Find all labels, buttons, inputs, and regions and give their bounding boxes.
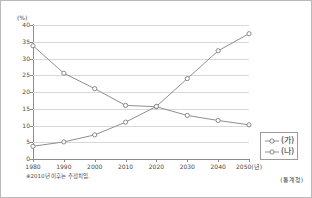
y-axis-tick-label: 20 — [22, 89, 30, 95]
x-axis-tick-label: 1980 — [25, 164, 40, 170]
x-axis-tick-label: 2030 — [180, 164, 195, 170]
data-point-marker — [154, 104, 158, 108]
plot-area — [33, 25, 249, 159]
legend-item: (나) — [264, 146, 294, 157]
data-point-marker — [62, 140, 66, 144]
data-point-marker — [93, 87, 97, 91]
x-axis-tick-mark — [33, 159, 34, 162]
x-axis-tick-label: 2020 — [149, 164, 164, 170]
data-point-marker — [216, 49, 220, 53]
x-axis-tick-label: 2010 — [118, 164, 133, 170]
data-point-marker — [31, 144, 35, 148]
legend-marker-icon — [264, 148, 280, 156]
x-axis-tick-label: 2000 — [87, 164, 102, 170]
y-axis-tick-label: 35 — [22, 39, 30, 45]
data-point-marker — [247, 123, 251, 127]
chart-figure: (%) 0510152025303540 1980199020002010202… — [0, 0, 312, 198]
y-axis-tick-label: 10 — [22, 123, 30, 129]
chart-legend: (가)(나) — [260, 132, 298, 160]
data-point-marker — [31, 44, 35, 48]
x-axis-tick-mark — [249, 159, 250, 162]
data-point-marker — [185, 77, 189, 81]
data-point-marker — [185, 113, 189, 117]
legend-marker-icon — [264, 137, 280, 145]
data-point-marker — [93, 133, 97, 137]
x-axis-tick-mark — [187, 159, 188, 162]
x-axis-tick-mark — [218, 159, 219, 162]
data-point-marker — [123, 103, 127, 107]
series-plot — [33, 25, 249, 159]
x-axis-tick-mark — [64, 159, 65, 162]
x-axis-tick-label: 2040 — [211, 164, 226, 170]
chart-footnote: ※2010년 이후는 추정치임. — [26, 174, 90, 180]
y-axis-tick-label: 15 — [22, 106, 30, 112]
data-point-marker — [62, 71, 66, 75]
data-point-marker — [247, 32, 251, 36]
x-axis-tick-mark — [126, 159, 127, 162]
y-axis-tick-label: 25 — [22, 72, 30, 78]
x-axis-tick-label: 1990 — [56, 164, 71, 170]
x-axis-tick-label: 2050(년) — [236, 164, 262, 170]
data-point-marker — [216, 118, 220, 122]
series-line — [33, 46, 249, 125]
legend-item-label: (나) — [281, 148, 294, 156]
y-axis-tick-label: 40 — [22, 22, 30, 28]
chart-source-note: (통계청) — [280, 177, 303, 183]
legend-item-label: (가) — [281, 137, 294, 145]
x-axis-tick-mark — [156, 159, 157, 162]
legend-item: (가) — [264, 135, 294, 146]
x-axis-tick-mark — [95, 159, 96, 162]
data-point-marker — [123, 120, 127, 124]
series-2 — [31, 32, 251, 149]
y-axis-tick-label: 30 — [22, 56, 30, 62]
